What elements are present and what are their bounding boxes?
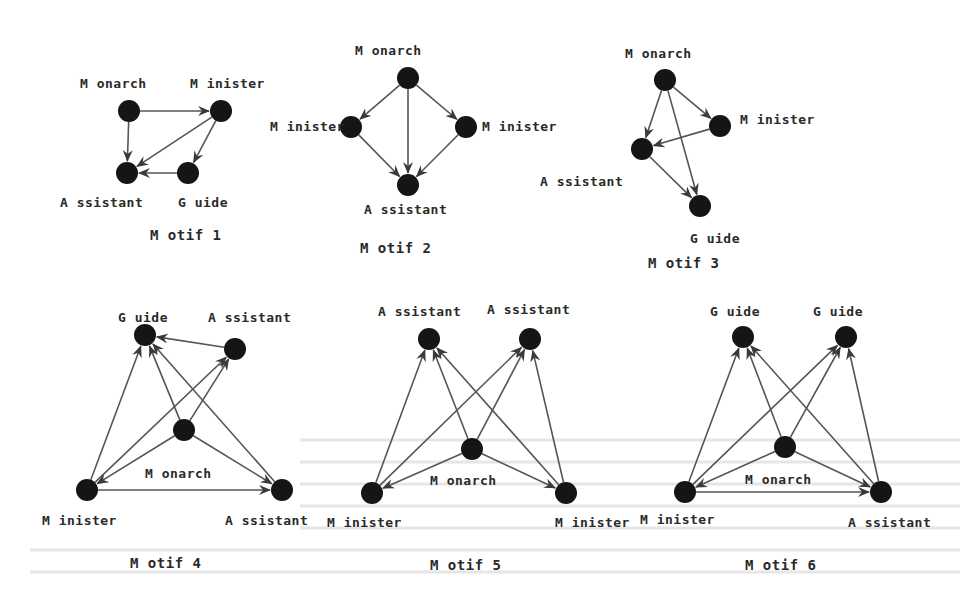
node-guide [177, 162, 199, 184]
node-label-minister: M inister [640, 512, 715, 527]
edge-minister-to-assistant_top [95, 357, 226, 482]
edge-assistant_br-to-guide [153, 344, 275, 482]
node-label-assistant: A ssistant [540, 174, 623, 189]
motif-4: G uideA ssistantM onarchM inisterA ssist… [42, 310, 308, 571]
node-label-guide: G uide [118, 310, 168, 325]
node-label-assistant: A ssistant [364, 202, 447, 217]
node-label-minister_l: M inister [270, 119, 345, 134]
node-label-minister_r: M inister [555, 515, 630, 530]
node-label-assistant_br: A ssistant [225, 513, 308, 528]
node-monarch [173, 419, 195, 441]
edge-monarch-to-guide_r [790, 347, 840, 437]
node-minister_l [361, 482, 383, 504]
motif-figure: M onarchM inisterA ssistantG uideM otif … [0, 0, 972, 598]
node-label-monarch: M onarch [430, 473, 497, 488]
edge-minister_l-to-assistant [359, 135, 400, 177]
node-assistant [631, 138, 653, 160]
motif-caption: M otif 1 [150, 227, 221, 243]
node-monarch [461, 438, 483, 460]
edge-monarch-to-minister [673, 87, 710, 118]
edge-monarch-to-minister_r [416, 85, 456, 119]
node-label-monarch: M onarch [355, 43, 422, 58]
node-minister [76, 479, 98, 501]
edge-monarch-to-minister_l [360, 85, 400, 119]
node-label-minister_l: M inister [327, 515, 402, 530]
node-guide_r [835, 326, 857, 348]
edge-minister-to-guide [91, 346, 141, 479]
motif-caption: M otif 4 [130, 555, 201, 571]
node-label-assistant: A ssistant [60, 195, 143, 210]
node-assistant_r [519, 328, 541, 350]
node-label-assistant: A ssistant [848, 515, 931, 530]
node-label-monarch: M onarch [745, 472, 812, 487]
node-minister_r [555, 482, 577, 504]
edge-minister-to-assistant [654, 129, 710, 145]
node-minister_r [455, 116, 477, 138]
edge-minister_r-to-assistant [416, 135, 458, 177]
node-label-guide_l: G uide [710, 304, 760, 319]
node-assistant_br [271, 479, 293, 501]
edge-minister_r-to-assistant_l [437, 348, 559, 485]
motif-2: M onarchM inisterM inisterA ssistantM ot… [270, 43, 557, 256]
motif-3: M onarchM inisterA ssistantG uideM otif … [540, 46, 815, 271]
node-assistant_l [418, 328, 440, 350]
node-label-minister: M inister [740, 112, 815, 127]
node-monarch [118, 100, 140, 122]
node-assistant_top [224, 338, 246, 360]
node-label-monarch: M onarch [145, 466, 212, 481]
node-label-assistant_top: A ssistant [208, 310, 291, 325]
node-label-assistant_l: A ssistant [378, 304, 461, 319]
node-minister [210, 100, 232, 122]
node-label-assistant_r: A ssistant [487, 302, 570, 317]
node-label-guide_r: G uide [813, 304, 863, 319]
node-label-monarch: M onarch [80, 76, 147, 91]
node-label-minister: M inister [42, 513, 117, 528]
motif-1: M onarchM inisterA ssistantG uideM otif … [60, 76, 265, 243]
edge-monarch-to-assistant_top [190, 359, 229, 421]
node-label-guide: G uide [690, 231, 740, 246]
motif-caption: M otif 2 [360, 240, 431, 256]
node-label-minister: M inister [190, 76, 265, 91]
motif-5: A ssistantA ssistantM onarchM inisterM i… [327, 302, 630, 573]
node-assistant [116, 162, 138, 184]
motif-diagram-canvas: M onarchM inisterA ssistantG uideM otif … [0, 0, 972, 598]
edge-monarch-to-assistant [127, 122, 128, 161]
node-label-guide: G uide [178, 195, 228, 210]
node-guide [134, 324, 156, 346]
motif-caption: M otif 5 [430, 557, 501, 573]
edge-monarch-to-assistant_r [477, 350, 524, 440]
edge-assistant_top-to-guide [157, 337, 224, 347]
node-assistant [870, 481, 892, 503]
node-label-monarch: M onarch [625, 46, 692, 61]
motif-caption: M otif 3 [648, 255, 719, 271]
node-monarch [654, 69, 676, 91]
edge-monarch-to-assistant [646, 90, 662, 137]
node-monarch [397, 67, 419, 89]
node-monarch [774, 436, 796, 458]
motif-caption: M otif 6 [745, 557, 816, 573]
node-minister [709, 115, 731, 137]
edge-minister-to-assistant [137, 117, 212, 166]
node-guide [689, 195, 711, 217]
node-label-minister_r: M inister [482, 119, 557, 134]
node-minister [674, 481, 696, 503]
node-guide_l [732, 326, 754, 348]
node-assistant [397, 174, 419, 196]
motifs-layer: M onarchM inisterA ssistantG uideM otif … [42, 43, 931, 573]
edge-assistant-to-guide [650, 157, 692, 198]
